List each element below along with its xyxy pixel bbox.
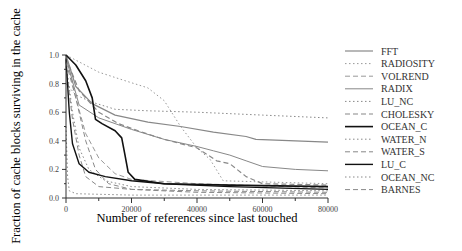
y-tick-label: 0.8 [49,80,59,89]
series-line-cholesky [66,58,328,185]
legend-item-ocean-c: OCEAN_C [345,121,427,132]
legend-label: OCEAN_NC [381,172,435,183]
series-line-lu-c [66,59,328,189]
legend-item-radiosity: RADIOSITY [345,58,435,69]
legend-label: RADIX [381,83,413,94]
series-line-lu-nc [66,84,328,118]
legend-label: RADIOSITY [381,58,435,69]
series-line-fft [66,55,328,142]
legend-label: FFT [381,46,398,57]
legend-item-volrend: VOLREND [345,71,429,82]
legend-label: BARNES [381,184,420,195]
y-tick-label: 0.6 [49,108,59,117]
y-tick-label: 0.4 [49,137,59,146]
legend-label: CHOLESKY [381,109,434,120]
legend-item-water-n: WATER_N [345,134,427,145]
series-line-radix [66,58,328,171]
legend-label: LU_C [381,159,406,170]
series-line-water-n [66,62,328,191]
legend-item-ocean-nc: OCEAN_NC [345,172,435,183]
legend-item-radix: RADIX [345,83,413,94]
y-axis-label: Fraction of cache blocks surviving in th… [9,8,23,244]
y-tick-label: 0.2 [49,165,59,174]
x-tick-label: 80000 [318,205,338,214]
legend-item-water-s: WATER_S [345,146,425,157]
series-line-radiosity [66,55,328,184]
legend-label: WATER_S [381,146,425,157]
legend-item-barnes: BARNES [345,184,420,195]
legend-item-cholesky: CHOLESKY [345,109,434,120]
x-tick-label: 0 [64,205,68,214]
x-axis-label: Number of references since last touched [97,211,299,225]
legend-item-fft: FFT [345,46,398,57]
survival-chart: 0.00.20.40.60.81.0020000400006000080000 … [0,0,462,251]
axes: 0.00.20.40.60.81.0020000400006000080000 [49,51,338,214]
y-tick-label: 1.0 [49,51,59,60]
legend-label: WATER_N [381,134,427,145]
legend-label: VOLREND [381,71,429,82]
legend-label: OCEAN_C [381,121,427,132]
legend: FFTRADIOSITYVOLRENDRADIXLU_NCCHOLESKYOCE… [345,46,435,196]
legend-label: LU_NC [381,96,414,107]
plot-area [66,55,328,195]
series-line-volrend [66,55,328,188]
y-tick-label: 0.0 [49,194,59,203]
legend-item-lu-c: LU_C [345,159,406,170]
legend-item-lu-nc: LU_NC [345,96,414,107]
series-line-barnes [66,62,328,194]
